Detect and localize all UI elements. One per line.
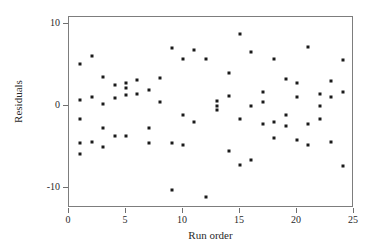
data-point bbox=[170, 47, 173, 50]
data-point bbox=[307, 123, 310, 126]
data-point bbox=[147, 126, 150, 129]
data-point bbox=[227, 94, 230, 97]
data-point bbox=[125, 87, 128, 90]
data-point bbox=[79, 62, 82, 65]
data-point bbox=[102, 145, 105, 148]
data-point bbox=[318, 117, 321, 120]
data-point bbox=[79, 152, 82, 155]
data-point bbox=[113, 97, 116, 100]
data-point bbox=[159, 77, 162, 80]
data-point bbox=[284, 78, 287, 81]
data-point bbox=[125, 134, 128, 137]
x-axis-title: Run order bbox=[68, 230, 353, 241]
data-point bbox=[227, 149, 230, 152]
data-point bbox=[296, 138, 299, 141]
data-point bbox=[125, 93, 128, 96]
data-point bbox=[330, 79, 333, 82]
data-point bbox=[261, 123, 264, 126]
data-point bbox=[90, 54, 93, 57]
data-point bbox=[216, 100, 219, 103]
x-axis-tick bbox=[182, 208, 183, 213]
data-point bbox=[227, 71, 230, 74]
data-point bbox=[136, 93, 139, 96]
plot-frame bbox=[68, 16, 353, 207]
data-point bbox=[182, 114, 185, 117]
data-point bbox=[170, 142, 173, 145]
data-point bbox=[273, 120, 276, 123]
data-point bbox=[239, 117, 242, 120]
data-point bbox=[307, 45, 310, 48]
y-axis-tick bbox=[63, 187, 68, 188]
data-point bbox=[193, 48, 196, 51]
data-point bbox=[204, 57, 207, 60]
x-axis-tick-label: 25 bbox=[338, 215, 368, 225]
data-point bbox=[330, 141, 333, 144]
data-point bbox=[216, 109, 219, 112]
data-point bbox=[330, 95, 333, 98]
y-axis-tick-label: 0 bbox=[32, 100, 60, 110]
data-point bbox=[159, 101, 162, 104]
data-point bbox=[284, 113, 287, 116]
data-point bbox=[79, 98, 82, 101]
x-axis-tick bbox=[353, 208, 354, 213]
data-point bbox=[90, 95, 93, 98]
data-point bbox=[250, 51, 253, 54]
x-axis-tick-label: 20 bbox=[281, 215, 311, 225]
x-axis-tick-label: 0 bbox=[53, 215, 83, 225]
x-axis-tick bbox=[125, 208, 126, 213]
data-point bbox=[113, 134, 116, 137]
data-point bbox=[193, 120, 196, 123]
y-axis-tick-label: 10 bbox=[32, 18, 60, 28]
data-point bbox=[102, 102, 105, 105]
data-point bbox=[147, 142, 150, 145]
y-axis-tick-label: -10 bbox=[32, 182, 60, 192]
data-point bbox=[79, 117, 82, 120]
y-axis-tick bbox=[63, 105, 68, 106]
x-axis-tick-label: 10 bbox=[167, 215, 197, 225]
data-point bbox=[318, 104, 321, 107]
data-point bbox=[239, 163, 242, 166]
scatter-plot-figure: Residuals Run order 100-100510152025 bbox=[0, 0, 377, 252]
data-point bbox=[284, 125, 287, 128]
data-point bbox=[102, 126, 105, 129]
x-axis-tick bbox=[68, 208, 69, 213]
data-point bbox=[250, 159, 253, 162]
data-point bbox=[307, 143, 310, 146]
x-axis-tick bbox=[239, 208, 240, 213]
data-point bbox=[341, 59, 344, 62]
data-point bbox=[261, 91, 264, 94]
data-point bbox=[182, 143, 185, 146]
data-point bbox=[102, 75, 105, 78]
data-point bbox=[250, 105, 253, 108]
data-point bbox=[216, 104, 219, 107]
data-point bbox=[296, 81, 299, 84]
data-point bbox=[204, 196, 207, 199]
data-point bbox=[239, 33, 242, 36]
data-point bbox=[147, 88, 150, 91]
data-point bbox=[296, 96, 299, 99]
x-axis-tick bbox=[296, 208, 297, 213]
data-point bbox=[90, 141, 93, 144]
data-point bbox=[341, 165, 344, 168]
data-point bbox=[182, 57, 185, 60]
data-point bbox=[136, 79, 139, 82]
data-point bbox=[125, 82, 128, 85]
data-point bbox=[79, 142, 82, 145]
y-axis-title: Residuals bbox=[13, 62, 24, 142]
data-point bbox=[170, 188, 173, 191]
x-axis-tick-label: 5 bbox=[110, 215, 140, 225]
data-point bbox=[261, 101, 264, 104]
x-axis-tick-label: 15 bbox=[224, 215, 254, 225]
data-point bbox=[341, 90, 344, 93]
data-point bbox=[273, 136, 276, 139]
y-axis-tick bbox=[63, 23, 68, 24]
data-point bbox=[273, 57, 276, 60]
data-point bbox=[113, 84, 116, 87]
plot-area bbox=[69, 17, 352, 206]
data-point bbox=[318, 93, 321, 96]
